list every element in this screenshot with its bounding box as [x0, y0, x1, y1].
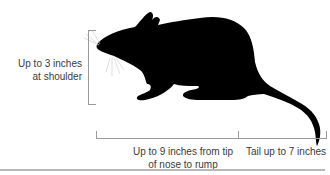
body-length-label: Up to 9 inches from tip of nose to rump	[118, 146, 248, 171]
height-label-line2: at shoulder	[4, 71, 82, 84]
height-label: Up to 3 inches at shoulder	[4, 58, 82, 83]
height-bracket-bottom-tick	[88, 104, 96, 105]
length-bracket-horizontal	[96, 138, 327, 139]
length-bracket-right-tick	[326, 131, 327, 139]
length-bracket-mid-tick	[238, 131, 239, 139]
tail-length-label: Tail up to 7 inches	[244, 146, 328, 159]
height-bracket-top-tick	[88, 30, 96, 31]
length-bracket-left-tick	[96, 131, 97, 139]
body-length-label-line1: Up to 9 inches from tip	[118, 146, 248, 159]
height-bracket-vertical	[88, 30, 89, 105]
bottom-divider	[0, 169, 325, 171]
height-label-line1: Up to 3 inches	[4, 58, 82, 71]
